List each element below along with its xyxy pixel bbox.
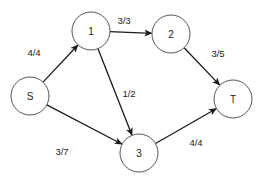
node-2: 2 [152, 15, 190, 53]
edge-label-3-T: 4/4 [189, 137, 202, 148]
node-label-2: 2 [168, 29, 174, 40]
edge-1-to-2-arrow [110, 32, 152, 34]
edge-label-S-3: 3/7 [55, 146, 68, 157]
edge-labels-layer: 4/43/33/51/23/74/4 [27, 15, 224, 157]
node-T: T [214, 80, 252, 118]
edge-label-2-T: 3/5 [211, 48, 224, 59]
edge-label-1-2: 3/3 [117, 15, 130, 26]
node-label-1: 1 [88, 26, 94, 37]
node-1: 1 [72, 12, 110, 50]
node-3: 3 [120, 134, 158, 172]
edge-label-1-3: 1/2 [122, 88, 135, 99]
node-label-3: 3 [136, 148, 142, 159]
edge-3-to-T-arrow [156, 109, 217, 144]
node-S: S [11, 77, 49, 115]
edge-S-to-1-arrow [43, 45, 78, 82]
edge-label-S-1: 4/4 [27, 47, 40, 58]
node-label-S: S [27, 91, 34, 102]
flow-network-diagram: S123T 4/43/33/51/23/74/4 [0, 0, 261, 182]
node-label-T: T [230, 94, 236, 105]
edge-S-to-3-arrow [47, 105, 122, 144]
